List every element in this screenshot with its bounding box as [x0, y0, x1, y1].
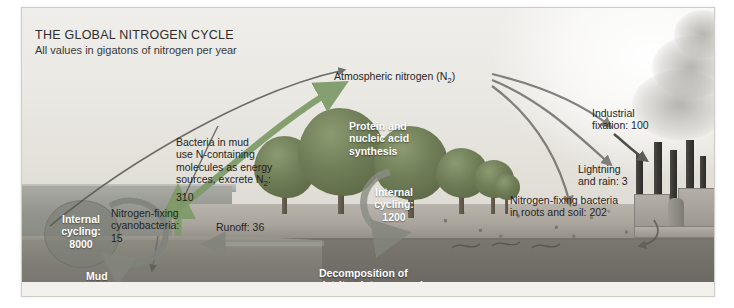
- nitrogen-cycle-figure: THE GLOBAL NITROGEN CYCLE All values in …: [0, 0, 734, 308]
- label-lightning-and-rain: Lightning and rain: 3: [578, 163, 628, 188]
- label-bacteria-in-mud: Bacteria in mud use N-containing molecul…: [176, 136, 306, 203]
- atmospheric-nitrogen-paren: ): [452, 70, 456, 82]
- factory: [634, 128, 714, 236]
- label-land-internal-cycling: Internal cycling: 1200: [363, 186, 425, 223]
- label-industrial-fixation: Industrial fixation: 100: [592, 107, 649, 132]
- factory-base: [634, 226, 715, 238]
- figure-subtitle: All values in gigatons of nitrogen per y…: [35, 44, 237, 56]
- atmospheric-nitrogen-text: Atmospheric nitrogen (N: [334, 70, 447, 82]
- label-mud: Mud: [86, 270, 108, 282]
- label-runoff: Runoff: 36: [216, 221, 264, 233]
- smokestack: [670, 150, 677, 200]
- bacteria-mud-text: Bacteria in mud use N-containing molecul…: [176, 136, 272, 185]
- figure-title: THE GLOBAL NITROGEN CYCLE: [35, 28, 234, 42]
- label-protein-synthesis: Protein and nucleic acid synthesis: [349, 120, 409, 157]
- label-ocean-internal-cycling: Internal cycling: 8000: [46, 213, 116, 250]
- card-bottom-strip: [22, 282, 714, 296]
- label-roots-and-soil: Nitrogen-fixing bacteria in roots and so…: [510, 194, 618, 219]
- figure-card: THE GLOBAL NITROGEN CYCLE All values in …: [21, 7, 715, 297]
- smokestack: [654, 142, 662, 200]
- label-atmospheric-nitrogen: Atmospheric nitrogen (N2): [334, 70, 455, 88]
- label-cyanobacteria: Nitrogen-fixing cyanobacteria: 15: [111, 207, 179, 244]
